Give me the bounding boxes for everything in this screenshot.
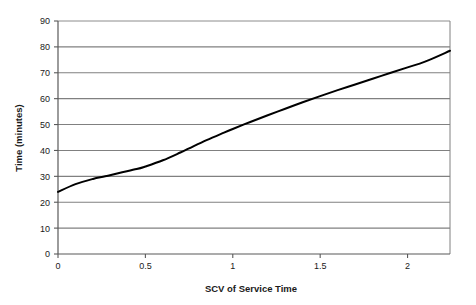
- y-tick-label-30: 30: [40, 172, 50, 182]
- y-axis-title: Time (minutes): [13, 104, 24, 171]
- y-tick-label-40: 40: [40, 146, 50, 156]
- y-tick-label-50: 50: [40, 120, 50, 130]
- x-tick-label-0: 0: [55, 261, 60, 271]
- chart-background: [0, 0, 476, 305]
- x-tick-label-2: 2: [405, 261, 410, 271]
- y-tick-label-90: 90: [40, 16, 50, 26]
- y-tick-label-20: 20: [40, 198, 50, 208]
- x-tick-label-1_5: 1.5: [314, 261, 327, 271]
- x-tick-label-1: 1: [230, 261, 235, 271]
- y-tick-label-10: 10: [40, 224, 50, 234]
- chart-figure: 0102030405060708090 00.511.52 Time (minu…: [0, 0, 476, 305]
- y-tick-label-70: 70: [40, 68, 50, 78]
- y-tick-label-0: 0: [45, 249, 50, 259]
- chart-canvas: 0102030405060708090 00.511.52 Time (minu…: [0, 0, 476, 305]
- y-tick-label-80: 80: [40, 42, 50, 52]
- x-tick-label-0_5: 0.5: [139, 261, 152, 271]
- x-axis-title: SCV of Service Time: [205, 283, 297, 294]
- y-tick-label-60: 60: [40, 94, 50, 104]
